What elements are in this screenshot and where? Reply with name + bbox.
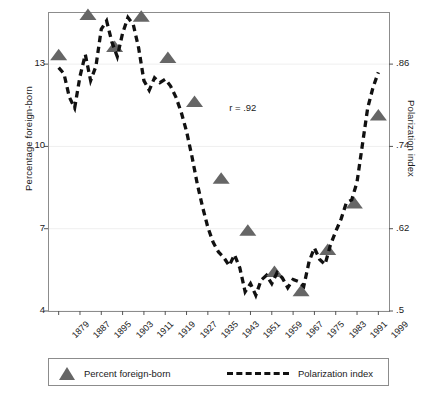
data-point-marker [370,109,387,121]
legend-item-percent-foreign-born: Percent foreign-born [59,359,171,387]
data-point-marker [293,285,310,297]
legend-item-polarization-index: Polarization index [227,359,373,387]
data-point-marker [186,95,203,107]
data-point-marker [213,172,230,184]
y-tick-label-left: 13 [34,57,45,68]
data-point-marker [50,49,67,61]
data-point-marker [159,52,176,64]
y-tick-label-left: 10 [34,139,45,150]
data-point-marker [239,224,256,236]
y-tick-label-right: .62 [396,222,409,233]
y-tick-label-right: .74 [396,139,409,150]
y-tick-label-left: 7 [40,222,45,233]
triangle-marker-icon [59,367,75,380]
legend-label-polarization-index: Polarization index [298,368,373,379]
correlation-annotation: r = .92 [229,102,256,113]
dashed-line-marker-icon [227,372,289,375]
y-axis-left-title: Percentage foreign-born [23,69,34,209]
y-tick-label-right: .5 [396,304,404,315]
data-point-marker [346,197,363,209]
plot-frame [49,13,390,312]
chart-legend: Percent foreign-born Polarization index [48,358,389,386]
y-tick-label-left: 4 [40,304,45,315]
legend-label-percent-foreign-born: Percent foreign-born [84,368,171,379]
y-tick-label-right: .86 [396,57,409,68]
chart-figure: Percentage foreign-born Polarization ind… [0,0,441,398]
data-point-marker [79,8,96,19]
